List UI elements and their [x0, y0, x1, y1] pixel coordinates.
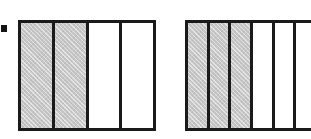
- fraction-bar-left: [18, 20, 156, 131]
- bar-part-shaded: [210, 23, 232, 128]
- bar-part-empty: [275, 23, 297, 128]
- bar-part-empty: [253, 23, 275, 128]
- bar-part-shaded: [188, 23, 210, 128]
- square-bullet-icon: [1, 25, 7, 32]
- fraction-bar-right: [185, 20, 311, 131]
- bar-part-shaded: [21, 23, 55, 128]
- bar-part-empty: [89, 23, 123, 128]
- bar-part-empty: [296, 23, 311, 128]
- bar-part-empty: [122, 23, 153, 128]
- bar-part-shaded: [55, 23, 89, 128]
- bar-part-shaded: [231, 23, 253, 128]
- fraction-figure: [0, 0, 311, 139]
